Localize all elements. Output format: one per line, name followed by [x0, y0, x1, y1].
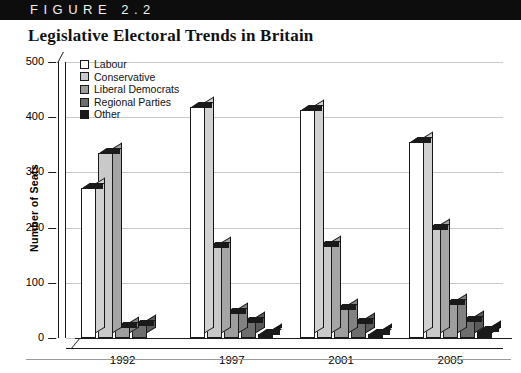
bar-face [409, 142, 424, 338]
y-tick-500: 500 [14, 55, 44, 67]
bar-side [205, 97, 214, 333]
y-tick-0: 0 [14, 331, 44, 343]
bar-2005-other [477, 331, 492, 338]
bar-side [113, 142, 122, 333]
x-tick-1992: 1992 [83, 354, 163, 366]
legend-item-regional-parties: Regional Parties [80, 96, 179, 109]
y-axis-wall-face [58, 62, 66, 338]
figure-number-label: FIGURE 2.2 [30, 2, 156, 17]
y-tick-400: 400 [14, 110, 44, 122]
figure-title: Legislative Electoral Trends in Britain [28, 26, 313, 46]
bar-face [258, 334, 273, 338]
bar-face [81, 188, 96, 338]
legend-label: Conservative [94, 71, 155, 84]
bar-1992-labour [81, 188, 96, 338]
legend-swatch-icon [80, 72, 89, 81]
legend-label: Regional Parties [94, 96, 171, 109]
bar-side [424, 132, 433, 333]
bar-side [441, 218, 450, 333]
bar-2005-labour [409, 142, 424, 338]
bar-side [222, 236, 231, 332]
y-tick-300: 300 [14, 165, 44, 177]
bar-side [96, 178, 105, 333]
x-tick-2005: 2005 [410, 354, 490, 366]
gridline [66, 172, 503, 173]
legend-item-labour: Labour [80, 58, 179, 71]
bar-side [332, 236, 341, 333]
legend-item-liberal-democrats: Liberal Democrats [80, 83, 179, 96]
bar-face [368, 334, 383, 338]
bar-2001-other [368, 334, 383, 338]
bar-2001-labour [300, 110, 315, 338]
plot-floor-front-edge [66, 348, 503, 349]
legend-swatch-icon [80, 110, 89, 119]
legend-label: Labour [94, 58, 127, 71]
legend-label: Other [94, 108, 120, 121]
bar-face [300, 110, 315, 338]
legend-item-conservative: Conservative [80, 71, 179, 84]
legend-item-other: Other [80, 108, 179, 121]
y-axis-wall [52, 52, 66, 338]
x-tick-1997: 1997 [192, 354, 272, 366]
y-tick-200: 200 [14, 221, 44, 233]
x-tick-2001: 2001 [301, 354, 381, 366]
legend-swatch-icon [80, 60, 89, 69]
legend-swatch-icon [80, 85, 89, 94]
bar-face [477, 331, 492, 338]
bar-1997-labour [190, 107, 205, 338]
legend-label: Liberal Democrats [94, 83, 179, 96]
chart-container: Number of Seats 0100200300400500 1992199… [0, 52, 521, 352]
bar-face [190, 107, 205, 338]
y-tick-100: 100 [14, 276, 44, 288]
plot-floor-back-edge [75, 338, 512, 339]
figure-header-bar: FIGURE 2.2 [0, 0, 521, 20]
bar-1997-other [258, 334, 273, 338]
bottom-divider [26, 359, 511, 360]
legend-swatch-icon [80, 98, 89, 107]
bar-side [315, 100, 324, 333]
chart-legend: LabourConservativeLiberal DemocratsRegio… [80, 58, 179, 121]
